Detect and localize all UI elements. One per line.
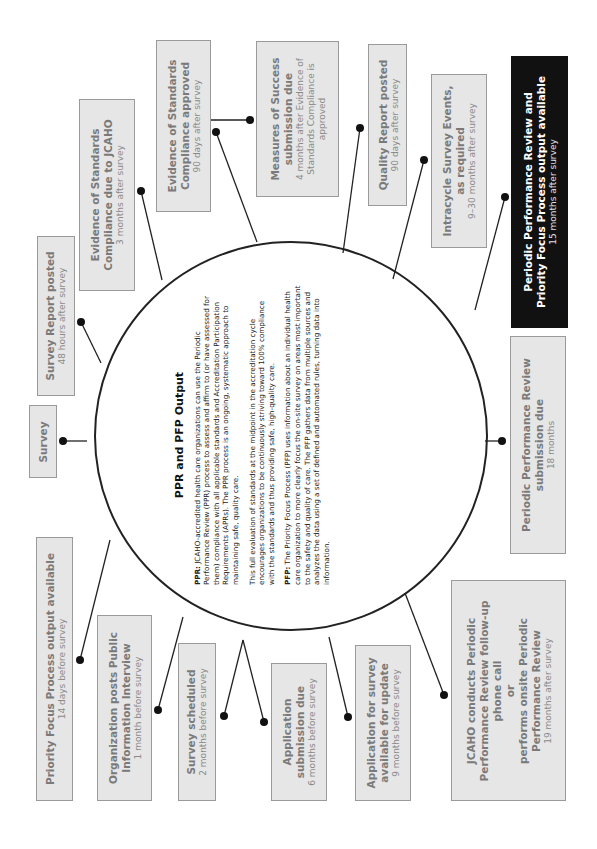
event-ppr-pfp-output-highlight: Periodic Performance Review and Priority… <box>511 56 568 328</box>
event-survey-scheduled: Survey scheduled2 months before survey <box>178 643 216 801</box>
event-pfp-output-14-days: Priority Focus Process output available1… <box>36 537 73 801</box>
event-esc-due: Evidence of Standards Compliance due to … <box>79 99 135 291</box>
pfp-paragraph: PFP: The Priority Focus Process (PFP) us… <box>283 285 331 585</box>
event-quality-report-posted: Quality Report posted90 days after surve… <box>368 44 407 206</box>
event-application-available-update: Application for survey available for upd… <box>355 645 411 801</box>
event-ppr-submission-due: Periodic Performance Review submission d… <box>510 336 566 554</box>
midpoint-paragraph: This full evaluation of standards at the… <box>248 285 277 585</box>
event-measures-of-success: Measures of Success submission due4 mont… <box>256 41 339 197</box>
center-title: PPR and PFP Output <box>175 285 185 585</box>
event-public-info-interview: Organization posts Public Information In… <box>97 615 152 801</box>
event-jcaho-followup: JCAHO conducts Periodic Performance Revi… <box>451 580 566 801</box>
event-intracycle-survey: Intracycle Survey Events, as required9–3… <box>431 74 487 248</box>
event-survey: Survey <box>29 405 57 478</box>
event-survey-report-posted: Survey Report posted48 hours after surve… <box>37 236 75 396</box>
event-application-submission-due: Application submission due6 months befor… <box>271 663 327 801</box>
ppr-paragraph: PPR: JCAHO-accredited health care organi… <box>193 285 241 585</box>
center-description: PPR and PFP Output PPR: JCAHO-accredited… <box>115 280 455 590</box>
event-esc-approved: Evidence of Standards Compliance approve… <box>156 40 211 212</box>
